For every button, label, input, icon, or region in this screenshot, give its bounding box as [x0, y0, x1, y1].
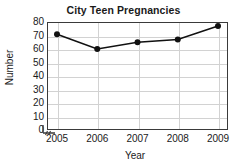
y-tick-10: 10 — [14, 112, 44, 122]
y-tick-20: 20 — [14, 98, 44, 108]
y-tick-40: 40 — [14, 71, 44, 81]
gridline-y-40 — [48, 77, 227, 78]
gridline-y-30 — [48, 91, 227, 92]
x-tick-2009: 2009 — [198, 133, 238, 144]
x-axis-tick-labels: 20052006200720082009 — [47, 133, 228, 147]
x-axis-label: Year — [40, 150, 230, 161]
gridline-y-50 — [48, 64, 227, 65]
gridline-x-2006 — [98, 23, 99, 129]
gridline-x-2008 — [179, 23, 180, 129]
x-tick-2007: 2007 — [118, 133, 158, 144]
y-tick-60: 60 — [14, 44, 44, 54]
gridline-x-2007 — [139, 23, 140, 129]
y-axis-tick-labels: 01020304050607080 — [13, 22, 44, 130]
y-tick-80: 80 — [14, 17, 44, 27]
x-tick-2006: 2006 — [77, 133, 117, 144]
gridline-x-2009 — [219, 23, 220, 129]
x-tick-2008: 2008 — [158, 133, 198, 144]
chart-title: City Teen Pregnancies — [0, 4, 247, 16]
gridline-x-2005 — [58, 23, 59, 129]
gridline-y-10 — [48, 118, 227, 119]
chart-container: City Teen Pregnancies Number 01020304050… — [0, 0, 247, 167]
gridline-y-60 — [48, 50, 227, 51]
axis-break-icon — [41, 122, 57, 136]
y-tick-30: 30 — [14, 85, 44, 95]
y-tick-70: 70 — [14, 31, 44, 41]
gridline-y-70 — [48, 37, 227, 38]
plot-area — [47, 22, 228, 130]
gridline-y-20 — [48, 104, 227, 105]
y-tick-50: 50 — [14, 58, 44, 68]
